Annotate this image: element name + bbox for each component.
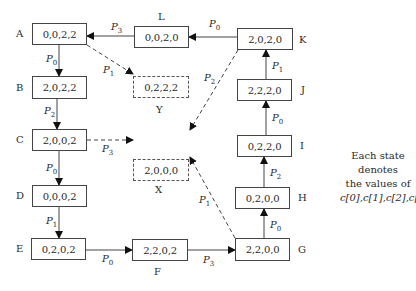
state-y-value: 0,2,2,2 (144, 82, 178, 93)
state-g: 2,2,0,0 (235, 238, 290, 261)
state-x: 2,0,0,0 (133, 159, 189, 181)
edge-label-g-x: P1 (199, 194, 210, 208)
state-label-i: I (300, 140, 304, 151)
edge-label-c-x: P3 (102, 143, 113, 157)
state-label-l: L (158, 11, 165, 22)
state-label-k: K (299, 34, 306, 45)
edge-k-x (190, 50, 238, 130)
edge-label-a-b: P0 (46, 53, 57, 67)
state-h-value: 0,2,0,0 (246, 193, 280, 204)
edge-label-h-i: P2 (270, 167, 281, 181)
edge-label-a-y: P1 (103, 64, 114, 78)
state-j: 2,2,2,0 (237, 79, 292, 101)
state-g-value: 2,2,0,0 (246, 244, 280, 255)
state-label-f: F (154, 266, 161, 277)
edge-label-i-j: P0 (272, 112, 283, 126)
state-label-g: G (298, 244, 306, 255)
edge-label-l-a: P3 (111, 21, 122, 35)
state-label-j: J (301, 84, 305, 95)
state-f: 2,2,0,2 (132, 239, 188, 261)
edge-label-g-h: P0 (270, 219, 281, 233)
edge-label-f-g: P3 (203, 254, 214, 268)
legend-line-3: c[0],c[1],c[2],c[3] (340, 191, 416, 205)
edge-label-c-d: P0 (46, 162, 57, 176)
edge-label-d-e: P1 (46, 215, 57, 229)
state-label-a: A (16, 28, 23, 39)
state-d: 0,0,0,2 (32, 185, 87, 207)
state-label-d: D (16, 190, 24, 201)
state-i: 0,2,2,0 (237, 135, 292, 157)
state-i-value: 0,2,2,0 (248, 141, 282, 152)
state-h: 0,2,0,0 (235, 187, 290, 209)
state-label-e: E (16, 243, 23, 254)
state-transition-diagram: 0,0,2,2 2,0,2,2 2,0,0,2 0,0,0,2 0,2,0,2 … (0, 0, 416, 291)
state-f-value: 2,2,0,2 (143, 245, 177, 256)
state-a: 0,0,2,2 (32, 23, 87, 45)
legend-line-1: Each state denotes (340, 149, 416, 177)
edge-label-j-k: P1 (272, 60, 283, 74)
state-label-h: H (298, 192, 307, 203)
state-j-value: 2,2,2,0 (248, 85, 282, 96)
state-b-value: 2,0,2,2 (43, 82, 77, 93)
state-x-value: 2,0,0,0 (144, 165, 178, 176)
edge-label-k-l: P0 (209, 18, 220, 32)
state-label-b: B (16, 82, 23, 93)
legend-note: Each state denotes the values of c[0],c[… (340, 149, 416, 205)
state-label-y: Y (156, 104, 163, 115)
state-y: 0,2,2,2 (133, 76, 189, 98)
state-k: 2,0,2,0 (237, 28, 293, 50)
edge-label-k-x: P2 (204, 72, 215, 86)
edge-label-e-f: P0 (102, 253, 113, 267)
state-e-value: 0,2,0,2 (42, 244, 76, 255)
state-c-value: 2,0,0,2 (43, 135, 77, 146)
state-k-value: 2,0,2,0 (248, 34, 282, 45)
edge-g-x (190, 157, 235, 238)
state-e: 0,2,0,2 (31, 238, 86, 260)
state-a-value: 0,0,2,2 (43, 29, 77, 40)
state-label-c: C (16, 134, 24, 145)
state-l-value: 0,0,2,0 (145, 32, 179, 43)
state-label-x: X (155, 184, 162, 195)
state-b: 2,0,2,2 (32, 76, 87, 99)
state-d-value: 0,0,0,2 (43, 191, 77, 202)
legend-line-2: the values of (340, 177, 416, 191)
state-c: 2,0,0,2 (32, 129, 87, 151)
edge-label-b-c: P2 (44, 105, 55, 119)
state-l: 0,0,2,0 (134, 26, 189, 48)
